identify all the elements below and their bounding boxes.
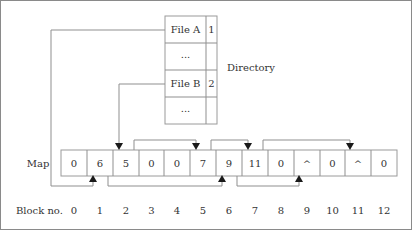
block-number: 5 [200, 205, 206, 216]
map-label: Map [27, 158, 50, 169]
map-cell: 0 [148, 158, 154, 169]
block-number: 6 [226, 205, 232, 216]
chain-7-to-11 [263, 140, 354, 150]
map-cell: 9 [226, 158, 232, 169]
block-number-label: Block no. [16, 205, 63, 216]
map-cell: 0 [329, 158, 335, 169]
block-number: 7 [252, 205, 258, 216]
map-cell: 0 [278, 158, 284, 169]
map-cell-null: ^ [354, 158, 362, 169]
directory-row-name: ... [181, 49, 191, 60]
directory-table: File A 1 ... File B 2 ... Directory [165, 16, 275, 124]
file-allocation-diagram: File A 1 ... File B 2 ... Directory Map … [0, 0, 412, 230]
map-cell-null: ^ [303, 158, 311, 169]
directory-row-start: 2 [208, 78, 214, 89]
block-number: 3 [148, 205, 154, 216]
block-number: 12 [378, 205, 391, 216]
chain-6-to-9 [237, 175, 303, 186]
block-number-row: Block no. 0 1 2 3 4 5 6 7 8 9 10 11 12 [16, 205, 390, 216]
map-row: Map 0 6 5 0 0 7 9 11 0 ^ 0 ^ 0 [27, 150, 397, 176]
map-cell: 7 [200, 158, 206, 169]
block-number: 8 [278, 205, 284, 216]
map-cell: 0 [71, 158, 77, 169]
arrow-down-icon [244, 143, 252, 150]
arrow-down-icon [346, 143, 354, 150]
block-number: 9 [304, 205, 310, 216]
block-number: 4 [174, 205, 180, 216]
block-number: 11 [352, 205, 365, 216]
map-cell: 0 [381, 158, 387, 169]
map-cell: 0 [174, 158, 180, 169]
directory-row-start: 1 [208, 24, 214, 35]
map-cell: 5 [123, 158, 129, 169]
block-number: 1 [97, 205, 103, 216]
arrow-down-icon [115, 143, 123, 150]
arrow-down-icon [192, 143, 200, 150]
map-cell: 6 [97, 158, 103, 169]
directory-row-name: File B [171, 78, 201, 89]
block-number: 10 [326, 205, 339, 216]
directory-label: Directory [227, 62, 275, 73]
block-number: 0 [71, 205, 77, 216]
map-cell: 11 [249, 158, 262, 169]
chain-1-to-6 [108, 175, 226, 186]
chain-5-to-7 [211, 140, 252, 150]
chain-2-to-5 [134, 140, 200, 150]
block-number: 2 [123, 205, 129, 216]
directory-row-name: File A [171, 24, 201, 35]
directory-row-name: ... [181, 103, 191, 114]
